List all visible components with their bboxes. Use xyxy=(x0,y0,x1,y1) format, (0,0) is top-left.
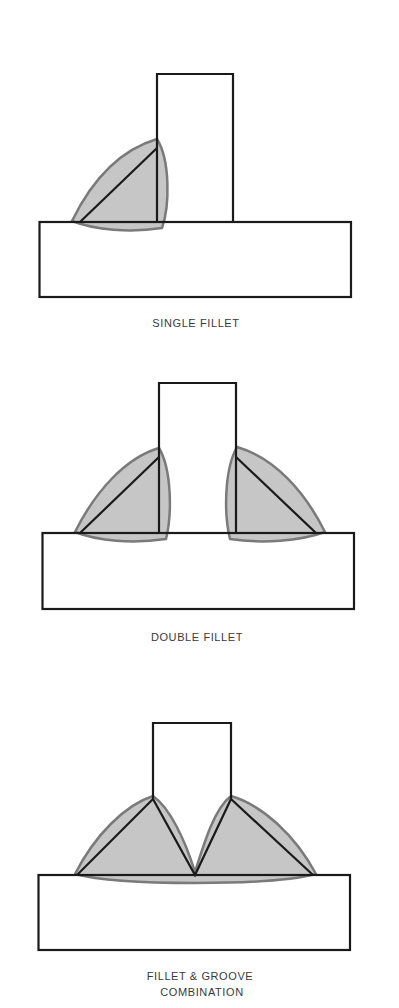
base-plate xyxy=(40,222,352,297)
figure-single-fillet: SINGLE FILLET xyxy=(40,74,352,329)
figure-label-line-1: FILLET & GROOVE xyxy=(147,970,254,982)
figure-fillet-groove: FILLET & GROOVE COMBINATION xyxy=(39,723,351,998)
base-plate xyxy=(43,533,355,609)
base-plate xyxy=(39,875,351,950)
figure-double-fillet: DOUBLE FILLET xyxy=(43,383,355,643)
weld-joint-diagram: SINGLE FILLET DOUBLE FILLET FILLET & GRO… xyxy=(0,0,399,1008)
figure-label: SINGLE FILLET xyxy=(152,317,239,329)
upright-member xyxy=(153,723,231,799)
weld-bead-left xyxy=(75,448,170,541)
figure-label-line-2: COMBINATION xyxy=(160,986,243,998)
figure-label: DOUBLE FILLET xyxy=(151,631,243,643)
